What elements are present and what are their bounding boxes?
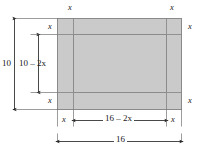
- label-bottom-right-x: x: [171, 115, 175, 124]
- label-top-left-x: x: [68, 3, 72, 12]
- label-width-outer: 16: [114, 135, 127, 144]
- label-left-lower-x: x: [48, 96, 52, 105]
- outer-rectangle: [58, 19, 182, 110]
- label-width-inner: 16 – 2x: [103, 114, 134, 123]
- label-bottom-left-x: x: [62, 115, 66, 124]
- label-height-inner: 10 – 2x: [19, 59, 46, 68]
- label-top-right-x: x: [170, 3, 174, 12]
- label-right-lower-x: x: [188, 96, 192, 105]
- label-right-upper-x: x: [188, 22, 192, 31]
- diagram-canvas: x x x x x x 10 10 – 2x x x 16 – 2x 16: [0, 0, 200, 163]
- label-height-outer: 10: [2, 59, 11, 68]
- diagram-svg: [0, 0, 200, 163]
- label-left-upper-x: x: [48, 22, 52, 31]
